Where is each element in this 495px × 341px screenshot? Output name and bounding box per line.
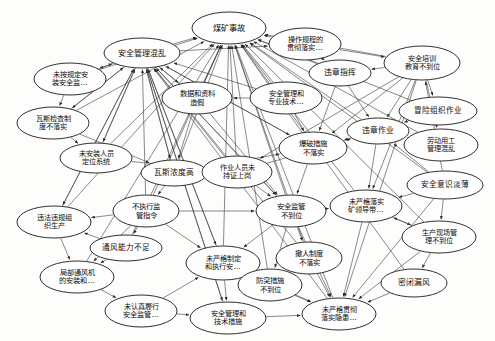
node-n11[interactable]: 爆破措施不落实 (279, 132, 347, 164)
node-n6[interactable]: 数据和资料造假 (162, 82, 232, 114)
node-shape-n27[interactable] (238, 269, 302, 301)
edge-n2-to-n3 (180, 46, 267, 51)
edge-n23-to-n21 (84, 233, 99, 239)
node-n8[interactable]: 违章指挥 (309, 60, 371, 86)
edge-n22-to-n19 (394, 218, 412, 226)
node-n9[interactable]: 冒险组织作业 (399, 97, 477, 125)
edge-n23-to-n26 (101, 259, 107, 262)
node-n22[interactable]: 生产现场管理不到位 (402, 221, 476, 253)
node-n20[interactable]: 不执行监管指令 (113, 195, 179, 227)
node-n19[interactable]: 未严格落实矿领导带… (330, 190, 402, 222)
node-shape-n10[interactable] (17, 107, 89, 139)
node-n31[interactable]: 未严格贯彻落实隐患… (302, 298, 376, 330)
node-shape-n6[interactable] (162, 82, 232, 114)
node-layer: 煤矿事故安全管理混乱操作规程的贯彻落实…安全培训教育不到位未按规定安装安全监…数… (17, 12, 483, 334)
edge-n15-to-n20 (158, 186, 164, 194)
edge-n18-to-n24 (244, 225, 273, 247)
node-n4[interactable]: 安全培训教育不到位 (384, 46, 460, 80)
node-shape-n21[interactable] (17, 206, 91, 238)
node-shape-n5[interactable] (34, 63, 106, 95)
node-shape-n9[interactable] (399, 97, 477, 125)
edge-n2-to-n15 (146, 68, 170, 158)
edge-n9-to-n12 (404, 121, 408, 122)
node-shape-n12[interactable] (347, 118, 409, 144)
edge-n17-to-n19 (399, 193, 414, 197)
node-shape-n8[interactable] (309, 60, 371, 86)
node-n29[interactable]: 未认真履行安全监管… (105, 295, 177, 327)
node-n26[interactable]: 局部通风机的安装和… (40, 261, 114, 293)
node-shape-n14[interactable] (60, 143, 132, 173)
node-n23[interactable]: 通风能力不足 (90, 235, 162, 261)
node-shape-n29[interactable] (105, 295, 177, 327)
node-n18[interactable]: 安全监管不到位 (256, 195, 326, 227)
node-shape-n31[interactable] (302, 298, 376, 330)
edge-n29-to-n24 (163, 277, 198, 297)
node-n15[interactable]: 瓦斯浓度高 (141, 160, 207, 186)
node-shape-n7[interactable] (250, 82, 322, 114)
edge-n19-to-n31 (343, 222, 361, 296)
node-n14[interactable]: 未安装人员定位系统 (60, 143, 132, 173)
node-shape-n22[interactable] (402, 221, 476, 253)
node-n2[interactable]: 安全管理混乱 (104, 38, 180, 68)
node-n10[interactable]: 瓦斯检查制度不落实 (17, 107, 89, 139)
node-shape-n18[interactable] (256, 195, 326, 227)
node-shape-n2[interactable] (104, 38, 180, 68)
node-shape-n13[interactable] (404, 129, 478, 161)
edge-n2-to-n1 (173, 37, 196, 44)
node-shape-n19[interactable] (330, 190, 402, 222)
edge-n12-to-n19 (369, 144, 376, 188)
node-shape-n25[interactable] (276, 242, 342, 274)
edge-n29-to-n30 (177, 314, 189, 315)
edge-n3-to-n8 (322, 58, 324, 60)
node-shape-n28[interactable] (381, 269, 447, 297)
edge-n21-to-n26 (61, 238, 70, 259)
node-n16[interactable]: 作业人员未持证上岗 (202, 156, 272, 188)
node-shape-n20[interactable] (113, 195, 179, 227)
node-n21[interactable]: 违法违规组织生产 (17, 206, 91, 238)
edge-n27-to-n31 (295, 296, 310, 302)
node-n12[interactable]: 违章作业 (347, 118, 409, 144)
edge-n7-to-n1 (243, 45, 274, 83)
node-shape-n26[interactable] (40, 261, 114, 293)
node-n27[interactable]: 防突措施不到位 (238, 269, 302, 301)
edge-n24-to-n30 (225, 280, 227, 300)
edge-n2-to-n14 (103, 68, 135, 141)
edge-n5-to-n10 (60, 95, 64, 105)
edge-n22-to-n28 (422, 253, 430, 268)
node-shape-n1[interactable] (192, 12, 266, 44)
edge-n17-to-n22 (441, 199, 443, 219)
node-n5[interactable]: 未按规定安装安全监… (34, 63, 106, 95)
edge-n30-to-n31 (266, 315, 300, 316)
edge-n10-to-n14 (71, 137, 78, 143)
edge-n20-to-n24 (166, 224, 201, 247)
node-n3[interactable]: 操作规程的贯彻落实… (269, 28, 341, 60)
node-n13[interactable]: 劳动用工管理混乱 (404, 129, 478, 161)
node-shape-n23[interactable] (90, 235, 162, 261)
edge-n8-to-n11 (319, 86, 335, 130)
node-n7[interactable]: 安全管理和专业技术… (250, 82, 322, 114)
node-shape-n11[interactable] (279, 132, 347, 164)
edge-n24-to-n1 (223, 46, 228, 246)
node-shape-n30[interactable] (190, 302, 266, 334)
node-n28[interactable]: 密闭漏风 (381, 269, 447, 297)
node-shape-n4[interactable] (384, 46, 460, 80)
edge-n3-to-n4 (339, 50, 384, 57)
node-shape-n3[interactable] (269, 28, 341, 60)
edge-n11-to-n18 (297, 164, 307, 193)
edge-n2-to-n6 (159, 67, 178, 83)
node-shape-n16[interactable] (202, 156, 272, 188)
edge-n26-to-n29 (101, 290, 116, 298)
edge-n28-to-n31 (368, 293, 390, 302)
node-n17[interactable]: 安全意识淡薄 (407, 171, 483, 199)
node-n30[interactable]: 安全管理和技术措施 (190, 302, 266, 334)
node-n1[interactable]: 煤矿事故 (192, 12, 266, 44)
network-canvas: 煤矿事故安全管理混乱操作规程的贯彻落实…安全培训教育不到位未按规定安装安全监…数… (0, 0, 495, 341)
edge-n4-to-n8 (372, 68, 385, 70)
node-shape-n15[interactable] (141, 160, 207, 186)
node-shape-n17[interactable] (407, 171, 483, 199)
node-n25[interactable]: 撤人制度不落实 (276, 242, 342, 274)
edge-n4-to-n9 (428, 80, 433, 95)
network-diagram: 煤矿事故安全管理混乱操作规程的贯彻落实…安全培训教育不到位未按规定安装安全监…数… (0, 0, 495, 341)
edge-n20-to-n21 (92, 215, 114, 218)
